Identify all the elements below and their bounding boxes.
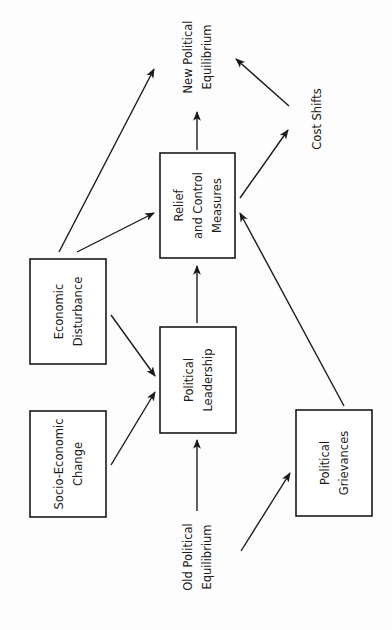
box-outline xyxy=(30,411,106,517)
node-label-new-eq: New PoliticalEquilibrium xyxy=(181,21,214,94)
node-label-old-eq: Old PoliticalEquilibrium xyxy=(181,523,214,590)
node-text-line: Cost Shifts xyxy=(310,88,324,149)
node-text-line: Old Political xyxy=(181,523,195,590)
node-text-line: Disturbance xyxy=(71,277,85,347)
node-text-line: New Political xyxy=(181,21,195,94)
nodes-layer: Old PoliticalEquilibriumSocio-EconomicCh… xyxy=(30,21,372,591)
node-text-line: Measures xyxy=(210,178,224,233)
node-box-pol-lead: PoliticalLeadership xyxy=(160,327,236,433)
arrow-economic-disturbance-to-political-leadership xyxy=(111,315,155,376)
arrow-economic-disturbance-to-relief-and-control-measures xyxy=(77,213,154,252)
node-text-line: Equilibrium xyxy=(200,524,214,589)
node-text-line: Socio-Economic xyxy=(52,419,66,510)
arrow-economic-disturbance-to-new-political-equilibrium xyxy=(59,69,154,252)
node-text-line: Relief xyxy=(172,189,186,222)
node-text-line: and Control xyxy=(191,172,205,239)
box-outline xyxy=(30,259,106,364)
arrow-socio-economic-change-to-political-leadership xyxy=(111,392,155,465)
node-box-relief: Reliefand ControlMeasures xyxy=(160,153,235,258)
causal-flow-diagram: Old PoliticalEquilibriumSocio-EconomicCh… xyxy=(0,0,392,630)
node-label-cost-shifts: Cost Shifts xyxy=(310,88,324,149)
node-text-line: Change xyxy=(71,442,85,486)
box-outline xyxy=(296,410,372,516)
node-text-line: Economic xyxy=(52,284,66,340)
node-text-line: Equilibrium xyxy=(200,24,214,89)
node-box-socio: Socio-EconomicChange xyxy=(30,411,106,517)
box-outline xyxy=(160,327,236,433)
node-text-line: Political xyxy=(318,441,332,485)
arrow-cost-shifts-to-new-political-equilibrium xyxy=(236,59,289,106)
node-text-line: Leadership xyxy=(201,348,215,411)
node-box-grievances: PoliticalGrievances xyxy=(296,410,372,516)
node-box-econ: EconomicDisturbance xyxy=(30,259,106,364)
arrow-relief-and-control-measures-to-cost-shifts xyxy=(240,130,288,198)
node-text-line: Grievances xyxy=(337,431,351,495)
arrow-old-political-equilibrium-to-political-grievances xyxy=(241,473,290,551)
arrow-political-grievances-to-relief-and-control-measures xyxy=(240,213,344,406)
node-text-line: Political xyxy=(182,358,196,402)
